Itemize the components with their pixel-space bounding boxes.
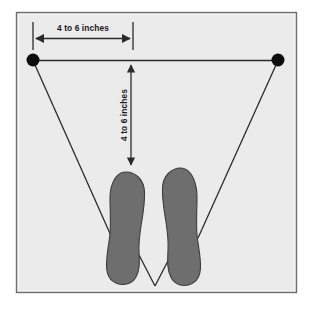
left-hip-marker: [27, 54, 40, 67]
vertical-dimension-label: 4 to 6 inches: [119, 89, 129, 141]
diagram-canvas: 4 to 6 inches 4 to 6 inches: [0, 0, 312, 314]
left-foot-shape: [107, 172, 145, 285]
diagram-frame: [17, 13, 297, 293]
horizontal-dimension-label: 4 to 6 inches: [57, 23, 109, 33]
right-hip-marker: [272, 54, 285, 67]
foot-placement-diagram: 4 to 6 inches 4 to 6 inches: [0, 0, 312, 314]
right-foot-shape: [162, 168, 200, 286]
